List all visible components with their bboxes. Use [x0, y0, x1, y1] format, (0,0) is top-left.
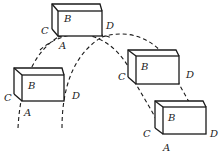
label-a: A: [58, 40, 66, 51]
trajectory-d-left: [62, 37, 102, 128]
label-b: B: [63, 13, 71, 24]
label-b: B: [140, 61, 148, 72]
diagram-canvas: B C D A B C D A B C D: [0, 0, 221, 156]
box-left: B C D A: [4, 68, 80, 118]
label-a: A: [162, 142, 170, 153]
box-bottom-right: B C D A: [143, 101, 218, 153]
label-a: A: [23, 107, 31, 118]
label-d: D: [209, 128, 218, 139]
box-right-middle: B C D: [118, 50, 194, 84]
box-top: B C D A: [41, 4, 114, 51]
label-d: D: [105, 20, 114, 31]
label-b: B: [27, 80, 35, 91]
label-b: B: [167, 112, 175, 123]
label-c: C: [4, 92, 12, 103]
label-c: C: [41, 25, 49, 36]
label-d: D: [71, 90, 80, 101]
label-c: C: [118, 71, 126, 82]
label-d: D: [185, 69, 194, 80]
block-trajectory-diagram: B C D A B C D A B C D: [0, 0, 221, 156]
label-c: C: [143, 128, 151, 139]
